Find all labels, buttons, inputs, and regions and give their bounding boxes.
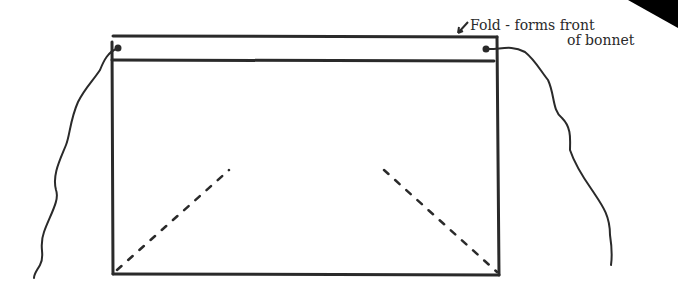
bonnet-rectangle: [112, 36, 499, 275]
fold-arrow-icon: [458, 22, 468, 33]
corner-triangle: [628, 0, 678, 28]
fold-annotation-line1: Fold - forms front: [470, 18, 595, 33]
bonnet-ties: [34, 46, 612, 279]
bonnet-pattern-diagram: Fold - forms front of bonnet: [0, 0, 678, 294]
fold-guidelines: [117, 170, 497, 272]
fold-annotation-line2: of bonnet: [567, 33, 634, 48]
